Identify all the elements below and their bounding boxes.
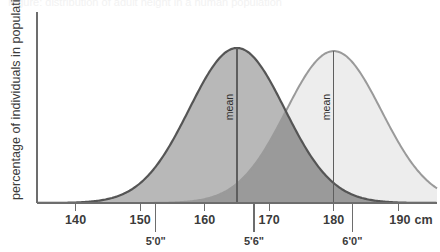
x-tick-label-cm: 180 — [323, 213, 344, 227]
x-tick-label-imperial: 5'0" — [146, 235, 166, 247]
x-tick-label-cm: 140 — [65, 213, 86, 227]
x-tick-label-cm: 170 — [259, 213, 280, 227]
chart-canvas: 140150160170180190 cm 5'0"5'6"6'0" mean … — [0, 0, 440, 252]
x-tick-label-cm: 160 — [194, 213, 215, 227]
x-axis-cm-ticks — [76, 203, 399, 211]
height-distribution-chart: Figure: distribution of adult height in … — [0, 0, 440, 252]
x-tick-label-cm: 190 cm — [389, 213, 433, 227]
x-tick-label-cm: 150 — [129, 213, 150, 227]
x-tick-label-imperial: 6'0" — [342, 235, 362, 247]
x-tick-label-imperial: 5'6" — [244, 235, 264, 247]
y-axis-label: percentage of individuals in population — [9, 0, 23, 200]
x-axis-imperial-labels: 5'0"5'6"6'0" — [146, 235, 363, 247]
mean-label-female: mean — [223, 94, 235, 120]
mean-label-male: mean — [320, 94, 332, 120]
x-axis-cm-labels: 140150160170180190 cm — [65, 213, 433, 227]
